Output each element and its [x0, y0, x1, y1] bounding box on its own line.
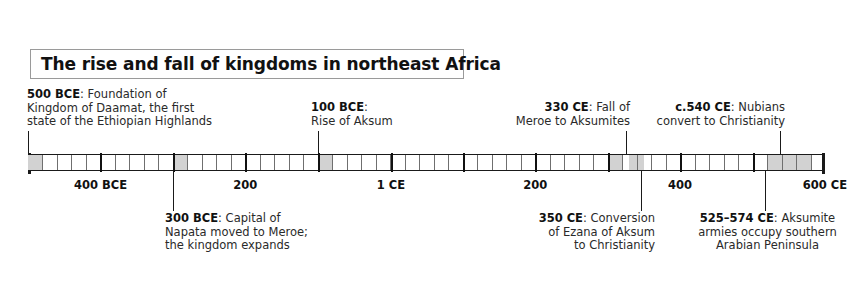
highlight-band [28, 155, 42, 170]
cell-divider [129, 155, 130, 170]
leader-line [780, 131, 781, 154]
cell-divider [782, 155, 783, 170]
century-tick [391, 153, 393, 172]
cell-divider [42, 155, 43, 170]
cell-divider [593, 155, 594, 170]
cell-divider [260, 155, 261, 170]
cell-divider [274, 155, 275, 170]
century-tick [608, 153, 610, 172]
cell-divider [158, 155, 159, 170]
leader-line [641, 171, 642, 211]
cell-divider [405, 155, 406, 170]
axis-tick-label: 600 CE [803, 178, 847, 192]
cell-divider [622, 155, 623, 170]
axis-tick-label: 200 [233, 178, 257, 192]
event-date: 525–574 CE [700, 211, 774, 225]
cell-divider [564, 155, 565, 170]
axis-tick-label: 200 [523, 178, 547, 192]
leader-line [28, 131, 29, 154]
cell-divider [796, 155, 797, 170]
cell-divider [216, 155, 217, 170]
century-tick [100, 153, 102, 172]
cell-divider [695, 155, 696, 170]
cell-divider [71, 155, 72, 170]
event-date: 350 CE [539, 211, 583, 225]
century-tick [753, 153, 755, 172]
cell-divider [767, 155, 768, 170]
century-tick [463, 153, 465, 172]
title-box: The rise and fall of kingdoms in northea… [30, 49, 464, 79]
cell-divider [144, 155, 145, 170]
page-title: The rise and fall of kingdoms in northea… [41, 54, 501, 74]
cell-divider [57, 155, 58, 170]
event-annotation: 350 CE: Conversion of Ezana of Aksum to … [490, 212, 655, 253]
event-annotation: 500 BCE: Foundation of Kingdom of Daamat… [27, 88, 277, 129]
event-annotation: 300 BCE: Capital of Napata moved to Mero… [165, 212, 395, 253]
cell-divider [477, 155, 478, 170]
cell-divider [187, 155, 188, 170]
cell-divider [506, 155, 507, 170]
cell-divider [637, 155, 638, 170]
cell-divider [666, 155, 667, 170]
cell-divider [376, 155, 377, 170]
cell-divider [448, 155, 449, 170]
cell-divider [361, 155, 362, 170]
century-tick [680, 153, 682, 172]
leader-line [318, 131, 319, 154]
highlight-band [173, 155, 187, 170]
cell-divider [303, 155, 304, 170]
leader-line [173, 171, 174, 211]
cell-divider [811, 155, 812, 170]
cell-divider [724, 155, 725, 170]
cell-divider [347, 155, 348, 170]
cell-divider [492, 155, 493, 170]
cell-divider [231, 155, 232, 170]
highlight-band [767, 155, 810, 170]
event-date: 500 BCE [27, 87, 80, 101]
century-tick [318, 153, 320, 172]
timeline-bar [28, 154, 825, 171]
timeline-end-cap [822, 153, 825, 174]
event-date: 100 BCE [311, 100, 364, 114]
event-annotation: 330 CE: Fall of Meroe to Aksumites [470, 101, 630, 128]
timeline-diagram: The rise and fall of kingdoms in northea… [0, 0, 864, 295]
cell-divider [709, 155, 710, 170]
leader-line [626, 131, 627, 154]
event-annotation: c.540 CE: Nubians convert to Christianit… [630, 101, 785, 128]
cell-divider [202, 155, 203, 170]
cell-divider [550, 155, 551, 170]
event-annotation: 100 BCE: Rise of Aksum [311, 101, 491, 128]
cell-divider [521, 155, 522, 170]
event-annotation: 525–574 CE: Aksumite armies occupy south… [680, 212, 855, 253]
cell-divider [289, 155, 290, 170]
event-date: c.540 CE [675, 100, 731, 114]
cell-divider [115, 155, 116, 170]
leader-line [765, 171, 766, 211]
cell-divider [86, 155, 87, 170]
cell-divider [651, 155, 652, 170]
axis-tick-label: 400 BCE [74, 178, 127, 192]
axis-tick-label: 400 [668, 178, 692, 192]
cell-divider [579, 155, 580, 170]
axis-tick-label: 1 CE [377, 178, 405, 192]
cell-divider [738, 155, 739, 170]
century-tick [535, 153, 537, 172]
event-date: 330 CE [544, 100, 588, 114]
event-date: 300 BCE [165, 211, 218, 225]
cell-divider [332, 155, 333, 170]
century-tick [245, 153, 247, 172]
cell-divider [419, 155, 420, 170]
century-tick [173, 153, 175, 172]
cell-divider [434, 155, 435, 170]
